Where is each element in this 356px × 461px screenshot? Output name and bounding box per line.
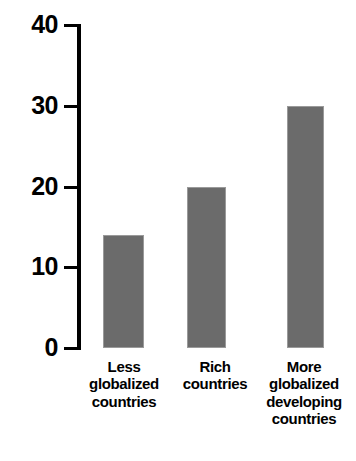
category-label-more-globalized: More globalized developing countries — [252, 358, 356, 428]
category-label-line: developing — [252, 393, 356, 410]
category-label-less-globalized: Less globalized countries — [72, 358, 176, 410]
y-tick-10 — [64, 266, 78, 269]
category-label-line: countries — [252, 410, 356, 427]
y-tick-40 — [64, 24, 78, 27]
y-tick-label-20: 20 — [0, 174, 58, 199]
category-label-rich-countries: Rich countries — [170, 358, 260, 393]
y-tick-label-40: 40 — [0, 12, 58, 37]
plot-area: 40 30 20 10 0 Less globalized countries … — [0, 0, 356, 461]
y-tick-20 — [64, 186, 78, 189]
bar-more-globalized — [287, 106, 324, 348]
category-label-line: countries — [72, 393, 176, 410]
category-label-line: globalized — [252, 375, 356, 392]
y-tick-label-30: 30 — [0, 93, 58, 118]
category-label-line: More — [252, 358, 356, 375]
y-tick-label-10: 10 — [0, 254, 58, 279]
category-label-line: Less — [72, 358, 176, 375]
y-tick-label-0: 0 — [0, 335, 58, 360]
y-tick-0 — [64, 347, 78, 350]
y-tick-30 — [64, 105, 78, 108]
bar-chart: 40 30 20 10 0 Less globalized countries … — [0, 0, 356, 461]
bar-rich-countries — [187, 187, 226, 349]
category-label-line: countries — [170, 375, 260, 392]
bar-less-globalized — [103, 235, 144, 348]
category-label-line: Rich — [170, 358, 260, 375]
category-label-line: globalized — [72, 375, 176, 392]
